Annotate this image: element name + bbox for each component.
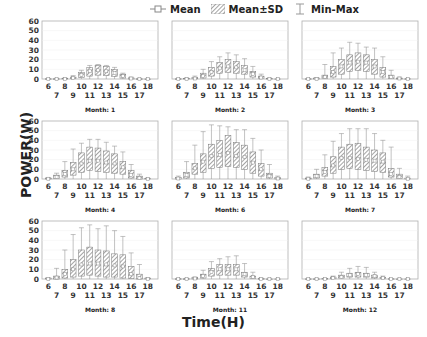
- x-tick-label: 10: [76, 282, 86, 291]
- mean-marker: [268, 77, 271, 80]
- x-tick-label: 11: [344, 91, 354, 100]
- x-tick-label: 10: [336, 282, 346, 291]
- mean-marker: [121, 166, 124, 169]
- x-tick-label: 6: [306, 282, 311, 291]
- y-axis-label: POWER(W): [18, 118, 34, 198]
- mean-marker: [348, 274, 351, 277]
- x-tick-label: 13: [101, 191, 111, 200]
- x-tick-label: 15: [378, 291, 388, 300]
- x-tick-label: 8: [62, 82, 67, 91]
- mean-marker: [251, 276, 254, 279]
- x-tick-label: 18: [272, 282, 282, 291]
- mean-marker: [381, 160, 384, 163]
- x-tick-label: 13: [101, 291, 111, 300]
- mean-marker: [105, 263, 108, 266]
- mean-marker: [121, 265, 124, 268]
- y-tick-label: 50: [29, 226, 39, 235]
- mean-marker: [88, 159, 91, 162]
- mean-marker: [227, 268, 230, 271]
- y-tick-label: 10: [29, 65, 39, 74]
- mean-marker: [365, 61, 368, 64]
- sd-box: [87, 147, 93, 170]
- x-tick-label: 9: [331, 191, 336, 200]
- mean-marker: [227, 151, 230, 154]
- x-tick-label: 18: [402, 282, 412, 291]
- mean-marker: [332, 71, 335, 74]
- x-tick-label: 6: [176, 182, 181, 191]
- x-tick-label: 18: [402, 82, 412, 91]
- mean-marker: [218, 153, 221, 156]
- mean-marker: [113, 72, 116, 75]
- y-tick-label: 40: [29, 36, 39, 45]
- mean-marker: [307, 278, 310, 281]
- x-tick-label: 17: [394, 91, 404, 100]
- mean-marker: [63, 173, 66, 176]
- x-axis-label: Time(H): [0, 314, 427, 330]
- mean-marker: [340, 156, 343, 159]
- x-tick-label: 15: [248, 291, 258, 300]
- panel: 6789101112131415161718Month: 2: [172, 21, 288, 113]
- mean-marker: [307, 78, 310, 81]
- mean-marker: [398, 278, 401, 281]
- x-tick-label: 9: [71, 191, 76, 200]
- x-tick-label: 10: [76, 182, 86, 191]
- mean-marker: [88, 70, 91, 73]
- mean-marker: [276, 78, 279, 81]
- x-tick-label: 16: [386, 182, 396, 191]
- panel-title: Month: 2: [215, 106, 245, 113]
- x-tick-label: 11: [214, 291, 224, 300]
- x-tick-label: 10: [336, 82, 346, 91]
- x-tick-label: 10: [336, 182, 346, 191]
- mean-marker: [63, 273, 66, 276]
- x-tick-label: 9: [71, 91, 76, 100]
- x-tick-label: 16: [126, 282, 136, 291]
- y-tick-label: 40: [29, 236, 39, 245]
- y-tick-label: 60: [29, 217, 39, 226]
- mean-marker: [390, 173, 393, 176]
- mean-marker: [307, 177, 310, 180]
- panel-title: Month: 1: [85, 106, 115, 113]
- x-tick-label: 15: [248, 191, 258, 200]
- x-tick-label: 13: [231, 91, 241, 100]
- x-tick-label: 13: [231, 291, 241, 300]
- x-tick-label: 18: [272, 182, 282, 191]
- x-tick-label: 8: [322, 182, 327, 191]
- x-tick-label: 16: [256, 182, 266, 191]
- x-tick-label: 9: [201, 191, 206, 200]
- mean-marker: [390, 76, 393, 79]
- mean-marker: [193, 77, 196, 80]
- x-tick-label: 6: [176, 282, 181, 291]
- x-tick-label: 8: [192, 282, 197, 291]
- x-tick-label: 7: [184, 191, 189, 200]
- y-tick-label: 0: [34, 275, 39, 284]
- mean-marker: [138, 177, 141, 180]
- x-tick-label: 6: [46, 282, 51, 291]
- x-tick-label: 15: [378, 191, 388, 200]
- y-tick-label: 20: [29, 255, 39, 264]
- x-tick-label: 6: [306, 182, 311, 191]
- panel-title: Month: 8: [85, 306, 115, 313]
- mean-marker: [332, 164, 335, 167]
- mean-marker: [315, 175, 318, 178]
- x-tick-label: 17: [134, 291, 144, 300]
- panel: 6789101112131415161718Month: 12: [302, 221, 418, 313]
- panel-title: Month: 4: [85, 206, 115, 213]
- x-tick-label: 14: [109, 182, 119, 191]
- x-tick-label: 7: [54, 291, 59, 300]
- x-tick-label: 8: [322, 82, 327, 91]
- x-tick-label: 9: [331, 291, 336, 300]
- x-tick-label: 9: [71, 291, 76, 300]
- panel: 01020304050606789101112131415161718Month…: [29, 117, 158, 214]
- x-tick-label: 8: [322, 282, 327, 291]
- y-tick-label: 20: [29, 55, 39, 64]
- mean-marker: [146, 177, 149, 180]
- x-tick-label: 7: [54, 191, 59, 200]
- x-tick-label: 14: [239, 282, 249, 291]
- mean-marker: [357, 157, 360, 160]
- x-tick-label: 16: [386, 282, 396, 291]
- mean-marker: [72, 168, 75, 171]
- x-tick-label: 13: [361, 191, 371, 200]
- mean-marker: [251, 73, 254, 76]
- x-tick-label: 11: [84, 91, 94, 100]
- x-tick-label: 14: [109, 282, 119, 291]
